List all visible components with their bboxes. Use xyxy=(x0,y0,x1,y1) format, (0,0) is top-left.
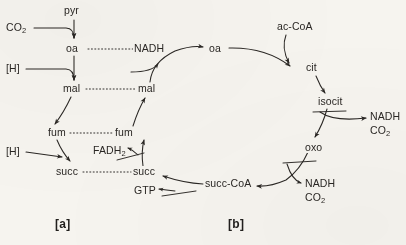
node-label-oa-left: oa xyxy=(65,43,79,54)
node-label-ac-coa: ac-CoA xyxy=(276,21,314,32)
node-label-mal-right: mal xyxy=(137,83,156,94)
arrow-oxo-to-succcoa xyxy=(257,152,308,186)
arrow-fum-to-mal xyxy=(133,98,145,126)
branch-tick-isocit xyxy=(313,111,346,112)
node-label-co2-isocit: CO2 xyxy=(369,125,391,136)
branch-tick-gtp xyxy=(162,191,196,196)
arrow-accoa-to-cit xyxy=(284,35,289,63)
arrow-h-to-succ xyxy=(26,152,62,157)
arrow-mal-to-fum xyxy=(55,97,71,124)
node-label-succ-right: succ xyxy=(132,166,156,177)
arrow-oa-to-cit xyxy=(229,48,290,66)
node-label-nadh-shuttle: NADH xyxy=(133,43,165,54)
arrow-branch-isocit-nadh-co2 xyxy=(320,112,366,119)
node-label-oa-right: oa xyxy=(208,43,222,54)
node-label-h-top: [H] xyxy=(5,63,21,74)
node-label-cit: cit xyxy=(305,62,318,73)
node-label-fum-left: fum xyxy=(47,127,67,138)
pathway-arrows-layer xyxy=(0,0,406,245)
branch-tick-oxo xyxy=(283,161,316,163)
node-label-co2-left: CO2 xyxy=(5,22,27,33)
panel-tag-a: [a] xyxy=(55,217,71,231)
node-label-mal-left: mal xyxy=(62,83,81,94)
arrow-fum-to-succ xyxy=(57,140,70,161)
node-label-fadh2: FADH2 xyxy=(92,145,127,156)
node-label-isocit: isocit xyxy=(317,96,344,107)
arrow-branch-fadh2 xyxy=(128,148,138,155)
pathway-figure: pyr CO2 oa [H] mal fum [H] succ NADH oa … xyxy=(0,0,406,245)
arrow-succcoa-to-succ xyxy=(163,176,203,184)
node-label-nadh-oxo: NADH xyxy=(304,178,336,189)
node-label-succ-coa: succ-CoA xyxy=(204,178,252,189)
node-label-co2-oxo: CO2 xyxy=(304,192,326,203)
node-label-nadh-isocit: NADH xyxy=(369,111,401,122)
node-label-h-bottom: [H] xyxy=(5,146,21,157)
arrow-h-to-mal xyxy=(26,69,74,80)
arrow-branch-nadh-shuttle xyxy=(131,64,158,72)
arrow-co2-to-oa xyxy=(34,28,74,38)
node-label-succ-left: succ xyxy=(55,166,79,177)
arrow-branch-gtp xyxy=(159,189,175,191)
panel-tag-b: [b] xyxy=(228,217,244,231)
node-label-pyr: pyr xyxy=(63,5,80,16)
node-label-oxo: oxo xyxy=(304,142,323,153)
node-label-gtp: GTP xyxy=(133,185,157,196)
node-label-fum-right: fum xyxy=(114,127,134,138)
arrow-cit-to-isocit xyxy=(316,76,325,93)
